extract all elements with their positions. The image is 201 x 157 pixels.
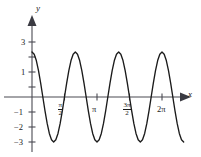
- x-axis-label: x: [188, 90, 192, 99]
- graph-figure: y x π2π3π22π 31−1−2−3: [0, 0, 201, 157]
- y-tick-label-4: −3: [14, 138, 23, 147]
- y-tick-label-0: 3: [21, 38, 25, 47]
- y-tick-label-3: −2: [14, 123, 23, 132]
- axes-group: [4, 15, 191, 152]
- x-tick-label-2: 3π2: [123, 102, 132, 117]
- x-tick-label-1: π: [92, 105, 96, 114]
- y-axis-label: y: [36, 4, 40, 13]
- plot-canvas: [0, 0, 201, 157]
- x-tick-label-3: 2π: [157, 105, 166, 114]
- y-tick-label-1: 1: [21, 68, 25, 77]
- arrow-up-icon: [28, 15, 37, 26]
- x-tick-label-0: π2: [58, 102, 64, 117]
- y-tick-label-2: −1: [14, 108, 23, 117]
